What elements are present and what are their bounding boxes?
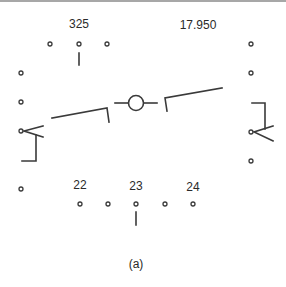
hud-diagram: 325 17.950 22 23 24: [0, 0, 286, 287]
scale-dot: [48, 42, 52, 46]
right-bracket: [252, 103, 265, 129]
heading-readout: 325: [69, 17, 89, 31]
bottom-scale: 22 23 24: [73, 178, 200, 225]
scale-dot: [106, 202, 110, 206]
scale-dot: [249, 42, 253, 46]
chevron-left-icon: [24, 126, 43, 137]
left-bracket: [22, 135, 36, 161]
scale-dot: [19, 100, 23, 104]
scale-label: 23: [129, 179, 143, 193]
figure-caption: (a): [129, 257, 144, 271]
flight-path-marker-icon: [115, 96, 157, 111]
scale-dot: [163, 202, 167, 206]
scale-dot: [19, 71, 23, 75]
frequency-readout: 17.950: [180, 18, 217, 32]
scale-label: 22: [73, 178, 87, 192]
heading-scale: [48, 42, 109, 65]
horizon-bar-left: [52, 108, 109, 122]
scale-dot: [77, 42, 81, 46]
scale-dot: [191, 202, 195, 206]
chevron-right-icon: [254, 126, 273, 141]
marker-circle: [129, 96, 144, 111]
scale-dot: [19, 187, 23, 191]
horizon-bar-right: [165, 88, 222, 111]
scale-dot: [105, 42, 109, 46]
scale-label: 24: [186, 180, 200, 194]
scale-dot: [78, 202, 82, 206]
right-scale: [249, 42, 273, 163]
left-scale: [19, 71, 43, 191]
scale-dot: [249, 71, 253, 75]
scale-dot: [134, 202, 138, 206]
scale-dot: [249, 159, 253, 163]
